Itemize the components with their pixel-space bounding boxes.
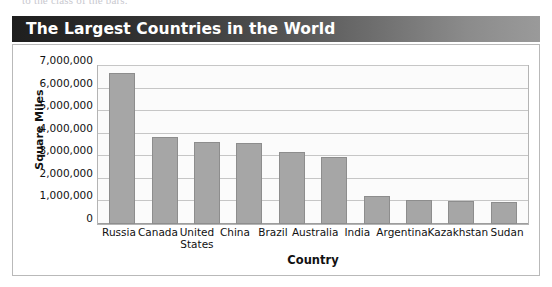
x-axis-tick-label: China [216, 227, 254, 250]
x-axis-title: Country [97, 253, 529, 267]
page-body-text-sliver: to the class of the bars. [22, 0, 322, 5]
chart-container: Square Miles 01,000,0002,000,0003,000,00… [12, 44, 540, 276]
bar-slot [355, 66, 397, 224]
x-axis-tick-label: United States [178, 227, 216, 250]
bar [152, 137, 178, 224]
plot-area [97, 65, 529, 225]
bar-slot [271, 66, 313, 224]
x-axis-tick-label: Argentina [376, 227, 427, 250]
bar-slot [440, 66, 482, 224]
bar-slot [143, 66, 185, 224]
bar [194, 142, 220, 224]
bar-series [98, 66, 528, 224]
y-axis-tick-labels: 01,000,0002,000,0003,000,0004,000,0005,0… [31, 59, 93, 225]
bar-slot [228, 66, 270, 224]
y-axis-tick-label: 5,000,000 [40, 99, 93, 111]
y-axis-tick-label: 0 [86, 212, 93, 224]
bar [406, 200, 432, 224]
bar [279, 152, 305, 224]
bar [109, 73, 135, 224]
y-axis-tick-label: 7,000,000 [40, 54, 93, 66]
x-axis-tick-label: Canada [138, 227, 178, 250]
bar [236, 143, 262, 224]
x-axis-tick-labels: RussiaCanadaUnited StatesChinaBrazilAust… [97, 227, 529, 250]
x-axis-tick-label: Russia [100, 227, 138, 250]
x-axis-tick-label: Sudan [488, 227, 526, 250]
bar [448, 201, 474, 224]
y-axis-tick-label: 3,000,000 [40, 144, 93, 156]
bar [491, 202, 517, 224]
page-title: The Largest Countries in the World [26, 20, 335, 38]
x-axis-tick-label: Kazakhstan [428, 227, 489, 250]
chart-title-banner: The Largest Countries in the World [12, 16, 540, 42]
y-axis-tick-label: 1,000,000 [40, 189, 93, 201]
x-axis-tick-label: Brazil [254, 227, 292, 250]
y-axis-tick-label: 4,000,000 [40, 122, 93, 134]
bar-slot [313, 66, 355, 224]
x-axis-tick-label: India [338, 227, 376, 250]
y-axis-tick-label: 2,000,000 [40, 167, 93, 179]
y-axis-tick-label: 6,000,000 [40, 77, 93, 89]
bar-slot [398, 66, 440, 224]
bar [321, 157, 347, 224]
bar [364, 196, 390, 224]
bar-slot [483, 66, 525, 224]
bar-slot [101, 66, 143, 224]
bar-slot [186, 66, 228, 224]
x-axis-tick-label: Australia [292, 227, 338, 250]
